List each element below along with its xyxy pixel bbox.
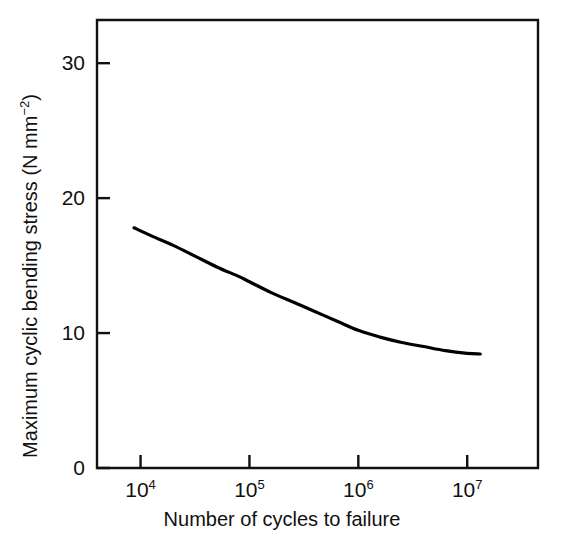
x-tick-label: 106	[343, 478, 374, 502]
series-line	[134, 228, 480, 354]
y-tick-label: 30	[62, 51, 85, 75]
x-tick-label: 104	[125, 478, 156, 502]
x-tick-base: 10	[234, 478, 257, 501]
y-axis-title-container: Maximum cyclic bending stress (N mm−2)	[10, 0, 50, 552]
plot-frame-box	[97, 20, 538, 468]
x-tick-label: 107	[452, 478, 483, 502]
x-tick-base: 10	[343, 478, 366, 501]
x-tick-base: 10	[452, 478, 475, 501]
data-series-group	[134, 228, 480, 354]
figure-container: 0102030 104105106107 Maximum cyclic bend…	[0, 0, 564, 552]
y-axis-title-main: Maximum cyclic bending stress (N mm	[19, 116, 41, 458]
x-tick-exponent: 7	[475, 477, 482, 492]
y-tick-label: 0	[73, 456, 85, 480]
x-tick-exponent: 5	[258, 477, 265, 492]
x-tick-exponent: 6	[366, 477, 373, 492]
y-axis-title-close: )	[19, 94, 41, 101]
y-axis-ticks	[97, 63, 110, 468]
y-tick-label: 10	[62, 321, 85, 345]
x-axis-title: Number of cycles to failure	[0, 508, 564, 531]
axes-frame	[97, 20, 538, 468]
x-tick-label: 105	[234, 478, 265, 502]
y-axis-title: Maximum cyclic bending stress (N mm−2)	[19, 94, 42, 458]
x-axis-ticks	[141, 455, 468, 468]
y-tick-label: 20	[62, 186, 85, 210]
x-tick-base: 10	[125, 478, 148, 501]
y-axis-title-exponent: −2	[17, 101, 32, 116]
x-tick-exponent: 4	[149, 477, 156, 492]
